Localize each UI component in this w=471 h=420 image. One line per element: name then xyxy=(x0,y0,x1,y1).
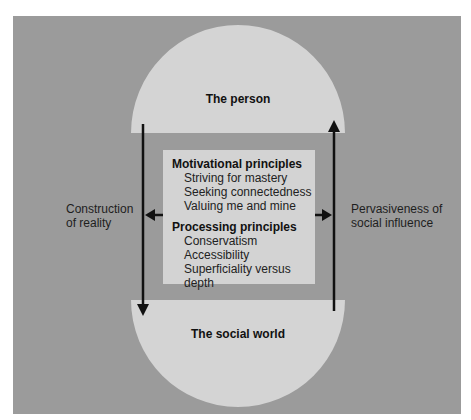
principle-item: Accessibility xyxy=(172,248,315,262)
pervasiveness-line1: Pervasiveness of xyxy=(351,202,442,216)
pervasiveness-label: Pervasiveness of social influence xyxy=(351,202,442,230)
processing-principles-heading: Processing principles xyxy=(172,221,315,234)
principle-item: Superficiality versus depth xyxy=(172,262,315,290)
principle-item: Seeking connectedness xyxy=(172,185,315,199)
motivational-principles-heading: Motivational principles xyxy=(172,158,315,171)
pervasiveness-line2: social influence xyxy=(351,216,442,230)
social-world-node-label: The social world xyxy=(131,327,345,341)
person-node-label: The person xyxy=(131,92,345,106)
down-arrow-icon xyxy=(137,124,149,316)
motivational-principles-section: Motivational principles Striving for mas… xyxy=(172,158,315,213)
right-arrow-icon xyxy=(315,209,332,221)
principle-item: Conservatism xyxy=(172,234,315,248)
construction-of-reality-label: Construction of reality xyxy=(66,202,133,230)
principles-box: Motivational principles Striving for mas… xyxy=(163,150,315,284)
construction-of-reality-line1: Construction xyxy=(66,202,133,216)
person-node-shape xyxy=(131,25,345,133)
left-arrow-icon xyxy=(145,209,163,221)
construction-of-reality-line2: of reality xyxy=(66,216,133,230)
principle-item: Striving for mastery xyxy=(172,171,315,185)
social-world-node-shape xyxy=(131,300,345,407)
processing-principles-section: Processing principles Conservatism Acces… xyxy=(172,221,315,290)
principle-item: Valuing me and mine xyxy=(172,199,315,213)
